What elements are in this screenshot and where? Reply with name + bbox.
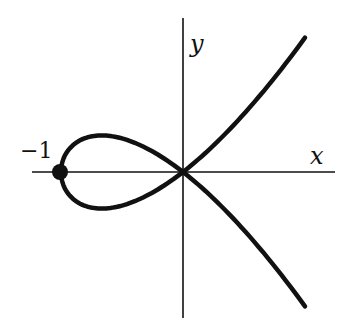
point-minus-one bbox=[52, 164, 68, 180]
plot bbox=[0, 0, 344, 332]
minus-one-label: −1 bbox=[20, 138, 52, 163]
y-axis-label: y bbox=[190, 30, 204, 58]
x-axis-label: x bbox=[310, 142, 324, 170]
